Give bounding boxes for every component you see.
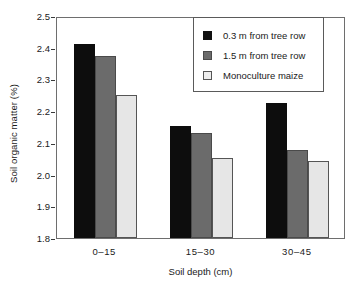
bar-15-30-series-0 xyxy=(170,126,191,238)
bar-30-45-series-0 xyxy=(266,103,287,238)
bar-15-30-series-1 xyxy=(191,133,212,238)
x-axis-title: Soil depth (cm) xyxy=(56,266,345,277)
x-axis-tick-label: 15–30 xyxy=(161,246,241,257)
gray-square-icon xyxy=(203,51,212,60)
y-axis-tick-label: 2.5 xyxy=(24,12,50,22)
y-axis-tick-mark xyxy=(51,207,55,208)
bar-30-45-series-1 xyxy=(287,150,308,238)
y-axis-tick-labels: 2.52.42.32.22.12.01.91.8 xyxy=(22,0,50,294)
y-axis-tick-label: 2.4 xyxy=(24,44,50,54)
y-axis-tick-mark xyxy=(51,176,55,177)
y-axis-tick-label: 2.3 xyxy=(24,76,50,86)
bar-0-15-series-1 xyxy=(95,56,116,238)
y-axis-tick-mark xyxy=(51,239,55,240)
chart-legend: 0.3 m from tree row 1.5 m from tree row … xyxy=(193,17,324,92)
black-square-icon xyxy=(203,31,212,40)
light-square-icon xyxy=(203,71,212,80)
legend-item-label: 0.3 m from tree row xyxy=(223,30,305,41)
bar-30-45-series-2 xyxy=(308,161,329,238)
bar-0-15-series-2 xyxy=(116,95,137,238)
y-axis-tick-label: 1.9 xyxy=(24,203,50,213)
legend-item: 0.3 m from tree row xyxy=(203,25,323,45)
x-axis-tick-label: 30–45 xyxy=(257,246,337,257)
y-axis-tick-label: 1.8 xyxy=(24,234,50,244)
soil-organic-matter-bar-chart: Soil organic matter (%) 2.52.42.32.22.12… xyxy=(0,0,358,294)
legend-item-label: 1.5 m from tree row xyxy=(223,50,305,61)
y-axis-tick-mark xyxy=(51,17,55,18)
y-axis-tick-mark xyxy=(51,80,55,81)
bar-0-15-series-0 xyxy=(74,44,95,238)
y-axis-tick-label: 2.0 xyxy=(24,171,50,181)
y-axis-tick-mark xyxy=(51,49,55,50)
legend-item-label: Monoculture maize xyxy=(223,70,303,81)
y-axis-tick-mark xyxy=(51,144,55,145)
x-axis-tick-label: 0–15 xyxy=(64,246,144,257)
y-axis-tick-label: 2.1 xyxy=(24,139,50,149)
y-axis-tick-label: 2.2 xyxy=(24,107,50,117)
y-axis-tick-mark xyxy=(51,112,55,113)
y-axis-title: Soil organic matter (%) xyxy=(8,54,19,214)
legend-item: Monoculture maize xyxy=(203,65,323,85)
bar-15-30-series-2 xyxy=(212,158,233,238)
legend-item: 1.5 m from tree row xyxy=(203,45,323,65)
